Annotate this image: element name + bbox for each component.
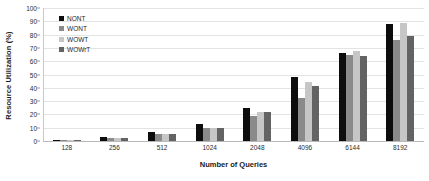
bar-WOWrT-128 [74,140,81,141]
legend-label-WONT: WONT [67,25,87,32]
bar-WOWT-6144 [353,51,360,141]
bar-WOWrT-2048 [264,112,271,141]
bar-WOWrT-1024 [217,128,224,141]
bar-NONT-4096 [291,77,298,141]
y-tick-mark-40 [37,87,40,88]
y-tick-label-80: 80 [30,31,37,38]
y-tick-mark-50 [37,74,40,75]
bar-WOWrT-512 [169,134,176,141]
plot-area [43,8,424,141]
bar-NONT-512 [148,132,155,141]
legend-label-WOWT: WOWT [67,36,88,43]
bar-WOWT-512 [162,134,169,141]
y-tick-label-40: 40 [30,84,37,91]
bar-group-4096 [281,8,329,141]
legend-label-WOWrT: WOWrT [67,46,90,53]
legend-entry-WONT[interactable]: WONT [59,25,90,33]
legend-swatch-WOWT [59,37,64,42]
bar-NONT-6144 [339,53,346,141]
bar-group-1024 [186,8,234,141]
bars-layer [43,8,424,141]
bar-group-512 [138,8,186,141]
y-tick-label-60: 60 [30,58,37,65]
x-tick-label-6144: 6144 [329,144,377,156]
legend-swatch-WOWrT [59,47,64,52]
bar-WONT-4096 [298,98,305,141]
bar-NONT-128 [53,140,60,141]
bar-NONT-8192 [386,24,393,141]
bar-group-8192 [376,8,424,141]
x-axis-title: Number of Queries [43,160,424,169]
bar-WOWrT-6144 [360,56,367,141]
x-tick-label-8192: 8192 [376,144,424,156]
y-tick-label-50: 50 [30,71,37,78]
y-tick-mark-70 [37,47,40,48]
bar-WONT-128 [60,140,67,141]
x-tick-label-4096: 4096 [281,144,329,156]
legend-swatch-NONT [59,16,64,21]
x-axis-tick-labels: 12825651210242048409661448192 [43,144,424,156]
x-tick-label-128: 128 [43,144,91,156]
y-tick-mark-60 [37,61,40,62]
x-tick-label-1024: 1024 [186,144,234,156]
y-tick-label-30: 30 [30,98,37,105]
chart-legend: NONTWONTWOWTWOWrT [59,14,90,54]
y-axis-title-text: Resource Utilization (%) [4,31,13,119]
y-tick-mark-90 [37,21,40,22]
bar-WOWT-128 [67,140,74,141]
legend-entry-WOWT[interactable]: WOWT [59,35,90,43]
bar-WOWrT-4096 [312,86,319,141]
bar-WOWT-4096 [305,82,312,141]
bar-group-256 [91,8,139,141]
y-tick-mark-30 [37,101,40,102]
y-tick-label-100: 100 [26,5,37,12]
bar-group-2048 [234,8,282,141]
bar-WONT-8192 [393,40,400,141]
bar-WOWrT-8192 [407,36,414,141]
bar-NONT-2048 [243,108,250,141]
y-tick-mark-80 [37,34,40,35]
bar-WONT-1024 [203,128,210,141]
y-tick-label-70: 70 [30,44,37,51]
bar-WOWrT-256 [121,138,128,141]
x-tick-label-2048: 2048 [234,144,282,156]
bar-NONT-1024 [196,124,203,141]
y-tick-label-10: 10 [30,124,37,131]
legend-swatch-WONT [59,26,64,31]
bar-WONT-512 [155,134,162,141]
y-tick-mark-100 [37,8,40,9]
bar-WONT-2048 [250,116,257,141]
bar-WONT-256 [107,138,114,141]
legend-entry-WOWrT[interactable]: WOWrT [59,46,90,54]
bar-chart: Resource Utilization (%) 010203040506070… [0,0,429,181]
x-tick-label-256: 256 [91,144,139,156]
bar-WOWT-1024 [210,128,217,141]
bar-NONT-256 [100,137,107,141]
bar-group-6144 [329,8,377,141]
bar-WOWT-8192 [400,23,407,141]
x-tick-label-512: 512 [138,144,186,156]
bar-WOWT-2048 [257,112,264,141]
y-axis-tick-labels: 0102030405060708090100 [16,8,40,141]
y-tick-mark-20 [37,114,40,115]
y-tick-label-20: 20 [30,111,37,118]
legend-label-NONT: NONT [67,15,85,22]
legend-entry-NONT[interactable]: NONT [59,14,90,22]
y-tick-label-90: 90 [30,18,37,25]
bar-WOWT-256 [114,138,121,141]
y-tick-mark-0 [37,141,40,142]
y-tick-mark-10 [37,127,40,128]
bar-WONT-6144 [346,55,353,141]
gridline-0 [43,141,424,142]
y-axis-title: Resource Utilization (%) [0,0,16,150]
